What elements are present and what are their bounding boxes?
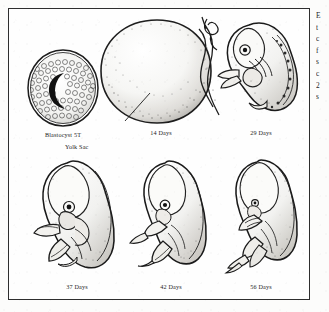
cut-off-text-line: 2: [316, 80, 329, 92]
embryo-42-days-illustration: [125, 157, 217, 279]
figure-cell-blastocyst: Blastocyst 5T: [23, 47, 103, 147]
cut-off-text-column: E t c f s c 2 s: [316, 10, 329, 106]
embryo-37-days-illustration: [31, 157, 123, 279]
cut-off-text-line: E: [316, 10, 329, 22]
figure-frame: Blastocyst 5T: [8, 8, 310, 300]
scanned-page: Blastocyst 5T: [0, 0, 329, 312]
cut-off-text-line: t: [316, 22, 329, 34]
embryo-29-days-illustration: [215, 15, 307, 127]
figure-cell-56-days: 56 Days: [215, 157, 307, 297]
cut-off-text-line: s: [316, 56, 329, 68]
figure-cell-yolk-sac: 14 Days Yolk Sac: [95, 15, 227, 147]
cut-off-text-line: f: [316, 45, 329, 57]
label-yolk-sac: Yolk Sac: [65, 143, 125, 150]
caption-42-days: 42 Days: [125, 283, 217, 290]
yolk-sac-illustration: [95, 15, 227, 133]
figure-content: Blastocyst 5T: [9, 9, 309, 299]
cut-off-text-line: c: [316, 68, 329, 80]
caption-blastocyst: Blastocyst 5T: [23, 131, 103, 138]
caption-37-days: 37 Days: [31, 283, 123, 290]
cut-off-text-line: s: [316, 91, 329, 103]
caption-29-days: 29 Days: [215, 129, 307, 136]
cut-off-text-line: c: [316, 33, 329, 45]
blastocyst-illustration: [23, 47, 103, 129]
embryo-56-days-illustration: [215, 157, 307, 279]
caption-56-days: 56 Days: [215, 283, 307, 290]
figure-cell-42-days: 42 Days: [125, 157, 217, 297]
figure-cell-37-days: 37 Days: [31, 157, 123, 297]
figure-cell-29-days: 29 Days: [215, 15, 307, 147]
caption-14-days: 14 Days: [95, 129, 227, 136]
